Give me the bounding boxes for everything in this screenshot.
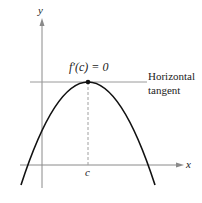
critical-point (86, 80, 91, 85)
diagram-canvas (0, 0, 202, 203)
x-axis-label: x (186, 158, 191, 170)
tangent-label-line1: Horizontal (148, 70, 195, 82)
y-axis-label: y (38, 4, 43, 16)
derivative-label: f′(c) = 0 (69, 61, 108, 73)
c-tick-label: c (85, 166, 90, 178)
tangent-label-line2: tangent (148, 84, 180, 96)
y-axis-arrow-icon (40, 18, 45, 26)
x-axis-arrow-icon (176, 163, 184, 168)
